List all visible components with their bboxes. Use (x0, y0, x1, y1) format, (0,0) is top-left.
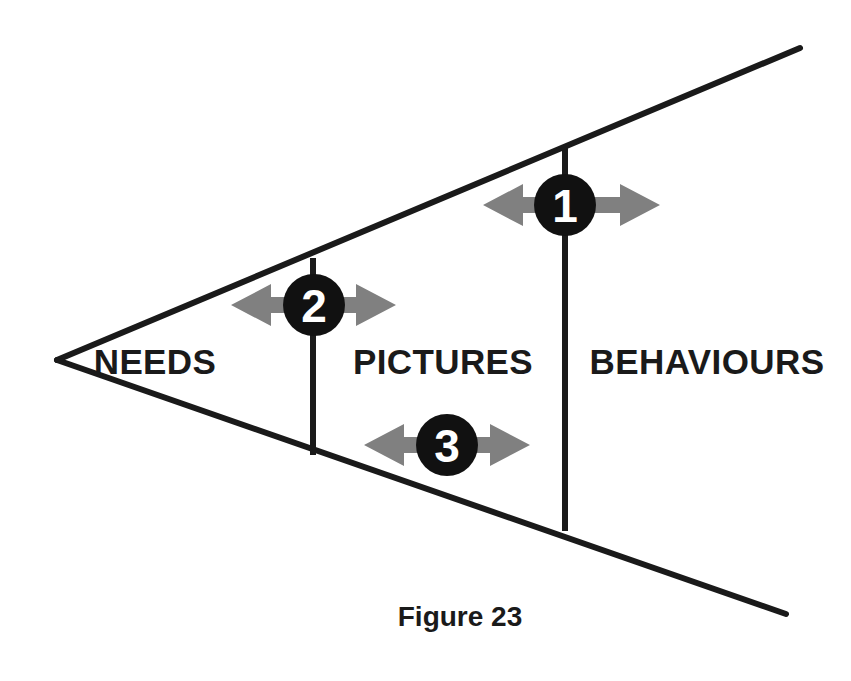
zone-label-behaviours: BEHAVIOURS (590, 342, 825, 381)
zone-label-needs: NEEDS (94, 342, 217, 381)
diagram-background (0, 0, 851, 681)
badge-number-3: 3 (434, 420, 460, 472)
figure-diagram-canvas: NEEDS PICTURES BEHAVIOURS 1 2 3 Figure 2… (0, 0, 851, 681)
zone-label-pictures: PICTURES (353, 342, 533, 381)
badge-number-2: 2 (301, 280, 327, 332)
wedge-diagram-svg: NEEDS PICTURES BEHAVIOURS 1 2 3 Figure 2… (0, 0, 851, 681)
badge-number-1: 1 (552, 180, 578, 232)
figure-caption: Figure 23 (398, 601, 522, 632)
